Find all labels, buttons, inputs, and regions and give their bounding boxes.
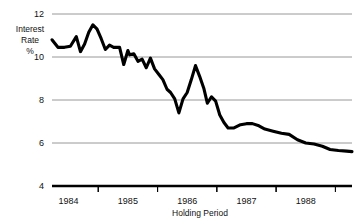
chart-container: 4681012 Interest Rate % 1984198519861987… bbox=[0, 0, 356, 222]
y-tick-label-10: 10 bbox=[34, 52, 44, 62]
y-tick-label-6: 6 bbox=[39, 138, 44, 148]
y-tick-label-12: 12 bbox=[34, 9, 44, 19]
y-tick-label-4: 4 bbox=[39, 181, 44, 191]
x-tick-label-1984: 1984 bbox=[59, 196, 79, 206]
x-tick-label-1985: 1985 bbox=[118, 196, 138, 206]
y-axis-title-line-2: Rate bbox=[21, 35, 39, 45]
x-tick-label-1987: 1987 bbox=[236, 196, 256, 206]
interest-rate-line-chart: 4681012 Interest Rate % 1984198519861987… bbox=[0, 0, 356, 222]
x-tick-label-1986: 1986 bbox=[177, 196, 197, 206]
x-tick-label-1988: 1988 bbox=[296, 196, 316, 206]
y-axis-title-line-1: Interest bbox=[16, 24, 45, 34]
y-axis-title-line-3: % bbox=[26, 46, 34, 56]
x-axis-title: Holding Period bbox=[172, 208, 228, 218]
y-tick-label-8: 8 bbox=[39, 95, 44, 105]
